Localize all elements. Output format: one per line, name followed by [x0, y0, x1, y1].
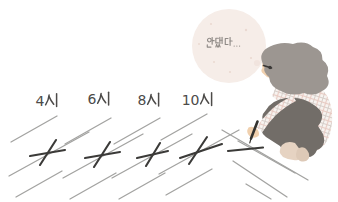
fail-marks	[30, 137, 263, 167]
time-label-number: 6	[88, 91, 97, 107]
ground-line	[11, 116, 57, 142]
time-label-number: 4	[36, 93, 45, 109]
time-labels: 46810	[36, 91, 212, 109]
bubble-grain	[198, 43, 200, 45]
time-label: 8	[138, 92, 159, 108]
hangul-glyph	[46, 94, 57, 107]
time-label: 4	[36, 93, 57, 109]
hangul-glyph	[236, 45, 237, 46]
hangul-glyph	[98, 92, 109, 105]
bubble-grain	[213, 61, 215, 63]
thought-bubble	[192, 9, 269, 83]
hangul-glyph	[148, 93, 159, 106]
illustration-scene: 46810	[0, 0, 338, 202]
scene-canvas: 46810	[0, 0, 338, 202]
ground-line	[16, 171, 62, 197]
time-label: 10	[182, 92, 212, 108]
x-mark	[180, 137, 222, 164]
ground-line	[119, 173, 165, 199]
ground-line	[233, 161, 287, 197]
ground-line	[65, 118, 111, 144]
thought-trail-dot	[254, 60, 260, 66]
ground-line	[166, 169, 212, 195]
bubble-grain	[250, 57, 252, 59]
ground-line	[9, 132, 89, 176]
time-label: 6	[88, 91, 109, 107]
x-mark	[137, 143, 168, 166]
bubble-grain	[210, 23, 212, 25]
hangul-glyph	[201, 93, 212, 106]
time-label-number: 8	[138, 92, 147, 108]
ground-line	[246, 184, 271, 199]
ground-line	[70, 173, 116, 199]
ground-line	[161, 114, 207, 140]
bubble-grain	[229, 71, 231, 73]
ground-line	[63, 134, 143, 178]
ground-line	[114, 118, 160, 144]
time-label-number: 10	[182, 92, 200, 108]
bubble-grain	[245, 29, 247, 31]
hangul-glyph	[239, 45, 240, 46]
hangul-glyph	[234, 45, 235, 46]
